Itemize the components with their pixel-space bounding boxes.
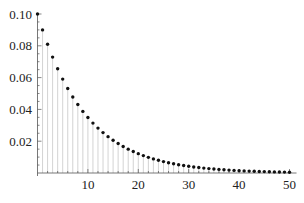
- data-point: [116, 142, 119, 145]
- data-point: [91, 121, 94, 124]
- data-point: [182, 164, 185, 167]
- data-point: [157, 159, 160, 162]
- data-point: [101, 131, 104, 134]
- data-point: [111, 139, 114, 142]
- data-point: [237, 169, 240, 172]
- x-tick-label: 10: [81, 177, 94, 192]
- data-point: [268, 170, 271, 173]
- data-point: [152, 157, 155, 160]
- x-tick-label: 30: [182, 177, 195, 192]
- data-point: [167, 161, 170, 164]
- y-tick-label: 0.08: [9, 38, 32, 53]
- data-point: [273, 170, 276, 173]
- data-point: [86, 116, 89, 119]
- data-point: [51, 55, 54, 58]
- data-point: [81, 110, 84, 113]
- data-point: [56, 67, 59, 70]
- data-point: [217, 168, 220, 171]
- data-point: [147, 156, 150, 159]
- y-axis-tick-labels: 0.020.040.060.080.10: [9, 7, 32, 149]
- chart-canvas: 1020304050 0.020.040.060.080.10: [0, 0, 304, 203]
- data-point: [137, 152, 140, 155]
- data-point: [278, 170, 281, 173]
- data-point: [197, 166, 200, 169]
- data-point: [162, 160, 165, 163]
- x-tick-label: 20: [132, 177, 145, 192]
- stem-plot-chart: 1020304050 0.020.040.060.080.10: [0, 0, 304, 203]
- data-point: [121, 145, 124, 148]
- data-point: [41, 28, 44, 31]
- y-tick-label: 0.10: [9, 7, 32, 22]
- data-point: [212, 167, 215, 170]
- data-point: [207, 167, 210, 170]
- data-point: [187, 165, 190, 168]
- data-point: [227, 168, 230, 171]
- data-point: [177, 163, 180, 166]
- data-point: [61, 77, 64, 80]
- data-point: [263, 170, 266, 173]
- data-point: [253, 170, 256, 173]
- x-tick-label: 50: [283, 177, 296, 192]
- x-axis-tick-labels: 1020304050: [81, 177, 296, 192]
- data-point: [283, 170, 286, 173]
- data-point: [222, 168, 225, 171]
- data-point: [46, 43, 49, 46]
- data-point: [127, 147, 130, 150]
- y-axis-ticks: [38, 14, 42, 165]
- data-point: [247, 169, 250, 172]
- x-tick-label: 40: [233, 177, 246, 192]
- stem-lines: [43, 30, 290, 173]
- y-tick-label: 0.04: [9, 102, 32, 117]
- data-point: [232, 169, 235, 172]
- data-point: [202, 166, 205, 169]
- data-point: [288, 170, 291, 173]
- data-point: [242, 169, 245, 172]
- data-point: [66, 87, 69, 90]
- y-tick-label: 0.06: [9, 70, 32, 85]
- data-point: [36, 12, 39, 15]
- data-point: [106, 135, 109, 138]
- data-points: [36, 12, 291, 174]
- data-point: [71, 95, 74, 98]
- data-point: [76, 103, 79, 106]
- data-point: [258, 170, 261, 173]
- y-tick-label: 0.02: [9, 134, 32, 149]
- data-point: [142, 154, 145, 157]
- data-point: [132, 150, 135, 153]
- data-point: [172, 162, 175, 165]
- data-point: [192, 165, 195, 168]
- data-point: [96, 126, 99, 129]
